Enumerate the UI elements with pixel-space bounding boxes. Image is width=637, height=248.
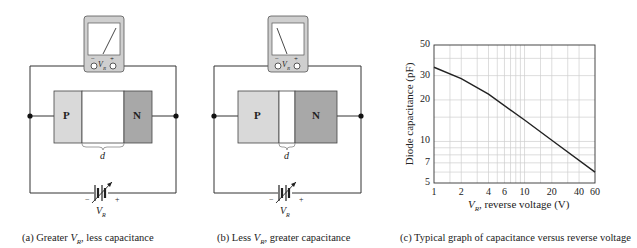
x-tick-label: 1 (432, 186, 437, 197)
caption-c: (c) Typical graph of capacitance versus … (400, 232, 631, 243)
x-tick-label: 20 (547, 186, 557, 197)
x-tick-label: 10 (520, 186, 530, 197)
x-tick-label: 4 (486, 186, 491, 197)
y-axis-label: Diode capacitance (pF) (403, 54, 415, 174)
x-tick-label: 6 (502, 186, 507, 197)
x-axis-label: VR, reverse voltage (V) (468, 198, 569, 213)
y-tick-label: 50 (408, 38, 430, 49)
x-tick-label: 60 (590, 186, 600, 197)
x-tick-label: 40 (574, 186, 584, 197)
x-tick-label: 2 (459, 186, 464, 197)
y-tick-label: 5 (408, 176, 430, 187)
